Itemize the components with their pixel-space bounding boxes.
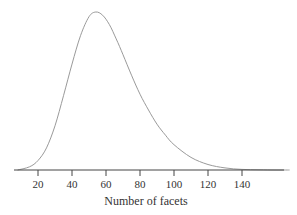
x-tick-label: 80 [135,178,146,190]
density-curve [18,12,290,170]
x-tick-label: 120 [200,178,217,190]
x-tick-label: 20 [33,178,44,190]
x-tick-label: 60 [101,178,112,190]
density-chart [0,0,297,215]
x-axis-title: Number of facets [104,194,187,209]
x-axis-ticks [38,170,242,176]
x-tick-label: 100 [166,178,183,190]
x-tick-label: 40 [67,178,78,190]
x-tick-label: 140 [234,178,251,190]
